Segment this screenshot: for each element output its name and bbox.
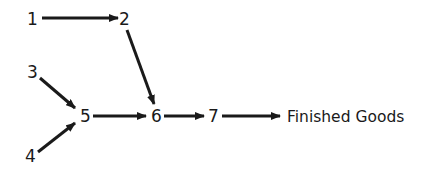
edge-3-to-5 xyxy=(40,78,75,108)
edge-4-to-5 xyxy=(38,123,75,152)
node-7: 7 xyxy=(208,106,219,126)
node-6: 6 xyxy=(151,106,162,126)
node-1: 1 xyxy=(27,9,38,29)
node-4: 4 xyxy=(25,146,36,166)
node-5: 5 xyxy=(80,106,91,126)
edge-2-to-6 xyxy=(127,30,154,104)
flow-diagram: 1 2 3 4 5 6 7 Finished Goods xyxy=(0,0,446,172)
node-finished-goods: Finished Goods xyxy=(287,108,404,126)
node-2: 2 xyxy=(119,9,130,29)
node-3: 3 xyxy=(27,62,38,82)
